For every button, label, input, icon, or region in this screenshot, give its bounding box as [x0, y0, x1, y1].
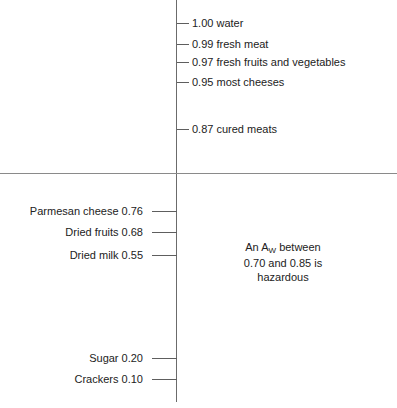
tick-mark — [177, 23, 189, 24]
scale-label-dried-milk: Dried milk 0.55 — [70, 249, 143, 261]
hazard-annotation-line-3: hazardous — [216, 270, 350, 284]
tick-mark — [177, 44, 189, 45]
hazard-annotation-line-2: 0.70 and 0.85 is — [216, 256, 350, 270]
tick-mark — [152, 232, 177, 233]
scale-label-parmesan-cheese: Parmesan cheese 0.76 — [30, 205, 143, 217]
scale-label-water: 1.00 water — [192, 17, 243, 29]
tick-mark — [152, 379, 177, 380]
tick-mark — [177, 62, 189, 63]
hazard-annotation-suffix: between — [276, 241, 321, 253]
scale-label-fresh-fruits-and-vegetables: 0.97 fresh fruits and vegetables — [192, 56, 345, 68]
scale-label-most-cheeses: 0.95 most cheeses — [192, 76, 284, 88]
scale-label-cured-meats: 0.87 cured meats — [192, 123, 277, 135]
hazard-divider-line — [0, 173, 397, 174]
scale-label-sugar: Sugar 0.20 — [89, 352, 143, 364]
scale-label-fresh-meat: 0.99 fresh meat — [192, 38, 268, 50]
tick-mark — [152, 358, 177, 359]
tick-mark — [177, 129, 189, 130]
scale-label-crackers: Crackers 0.10 — [75, 373, 143, 385]
tick-mark — [152, 211, 177, 212]
hazard-annotation-line-1: An AW between — [216, 240, 350, 256]
hazard-annotation-prefix: An A — [245, 241, 268, 253]
tick-mark — [177, 82, 189, 83]
scale-label-dried-fruits: Dried fruits 0.68 — [65, 226, 143, 238]
hazard-annotation: An AW between 0.70 and 0.85 is hazardous — [216, 240, 350, 284]
vertical-axis-line — [176, 0, 177, 402]
tick-mark — [152, 255, 177, 256]
hazard-annotation-subscript: W — [269, 246, 277, 255]
water-activity-diagram: 1.00 water 0.99 fresh meat 0.97 fresh fr… — [0, 0, 397, 408]
